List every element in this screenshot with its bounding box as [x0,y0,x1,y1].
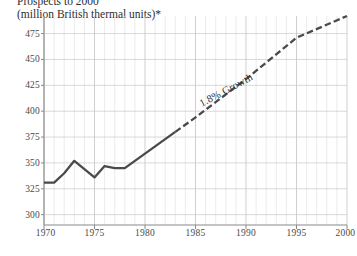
chart-page: Prospects to 2000 (million British therm… [0,0,357,256]
chart-canvas [0,0,357,256]
